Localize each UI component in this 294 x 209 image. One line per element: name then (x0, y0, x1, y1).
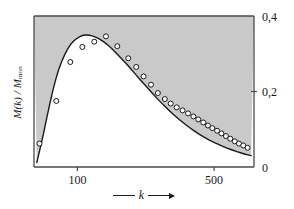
data-point (201, 120, 206, 125)
data-point (245, 145, 250, 150)
data-point (186, 111, 191, 116)
data-point (149, 82, 154, 87)
x-axis-ticks: 100500 (68, 167, 223, 187)
data-point (196, 117, 201, 122)
data-point (141, 74, 146, 79)
data-point (103, 34, 108, 39)
y-tick-label: 0,2 (262, 85, 277, 99)
data-point (168, 101, 173, 106)
data-point (54, 98, 59, 103)
data-point (92, 39, 97, 44)
data-point (155, 91, 160, 96)
x-tick-label: 500 (205, 173, 223, 187)
y-axis-ticks: 00,20,4 (251, 10, 277, 175)
data-point (180, 108, 185, 113)
data-point (162, 97, 167, 102)
y-tick-label: 0 (262, 161, 268, 175)
data-point (174, 105, 179, 110)
data-point (37, 141, 42, 146)
data-point (191, 114, 196, 119)
data-point (80, 44, 85, 49)
data-point (134, 64, 139, 69)
data-point (68, 60, 73, 65)
chart-plot-svg: 100500 00,20,4 (0, 0, 294, 209)
y-tick-label: 0,4 (262, 10, 277, 24)
data-point (115, 44, 120, 49)
chart-figure: 100500 00,20,4 M(k) / Mmon k (0, 0, 294, 209)
data-point (210, 126, 215, 131)
x-tick-label: 100 (68, 173, 86, 187)
data-point (126, 56, 131, 61)
